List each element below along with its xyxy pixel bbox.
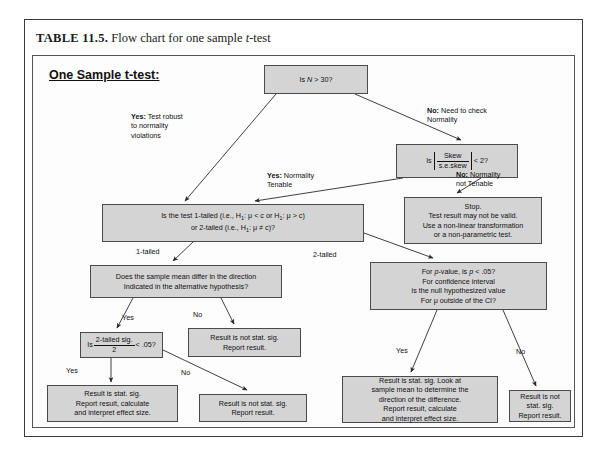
flowchart-frame: One Sample t-test: Is N > 30? Is Skews.e…: [32, 55, 575, 428]
node-is-n-greater-30[interactable]: Is N > 30?: [264, 65, 368, 94]
edge-label-no-normality-not-tenable: No: Normalitynot Tenable: [456, 170, 500, 189]
node-result-not-sig-report-upper[interactable]: Result is not stat. sig.Report result.: [188, 328, 301, 357]
table-caption-post: -test: [249, 31, 271, 45]
edge-label-yes-halfsig: Yes: [66, 366, 78, 375]
edge-label-yes-test-robust: Yes: Test robustto normalityviolations: [131, 112, 183, 140]
node-sample-mean-direction-question[interactable]: Does the sample mean differ in the direc…: [90, 265, 282, 298]
node-result-not-sig-report-lower[interactable]: Result is not stat. sig.Report result.: [199, 394, 307, 422]
edge-pvalue-to-sigright: [411, 310, 437, 372]
edge-label-no-check-normality: No: Need to checkNormality: [427, 106, 487, 125]
edge-label-1-tailed: 1-tailed: [136, 247, 160, 256]
edge-tails-to-direction: [173, 242, 193, 261]
table-number-label: TABLE 11.5.: [36, 31, 108, 45]
node-two-tailed-sig-halved-question[interactable]: Is2-tailed sig.2< .05?: [80, 332, 163, 358]
flowchart-canvas: One Sample t-test: Is N > 30? Is Skews.e…: [33, 56, 575, 428]
edge-n30-to-tails: [185, 94, 276, 201]
node-p-value-ci-question[interactable]: For p-value, is p < .05?For confidence i…: [370, 262, 547, 310]
edge-label-no-direction: No: [193, 310, 202, 319]
edge-label-no-pvalue: No: [516, 347, 525, 356]
table-title: TABLE 11.5. Flow chart for one sample t-…: [36, 31, 436, 51]
edge-label-yes-normality-tenable: Yes: NormalityTenable: [267, 171, 314, 190]
flowchart-heading: One Sample t-test:: [49, 68, 159, 82]
node-stop-invalid-result[interactable]: Stop.Test result may not be valid.Use a …: [404, 197, 542, 244]
edge-label-yes-pvalue: Yes: [396, 346, 408, 355]
edge-label-yes-direction: Yes: [122, 313, 134, 322]
table-caption-pre: Flow chart for one sample: [111, 31, 245, 45]
node-tailed-test-question[interactable]: Is the test 1-tailed (i.e., H1: μ < c or…: [102, 204, 364, 242]
screenshot-page: TABLE 11.5. Flow chart for one sample t-…: [0, 0, 607, 466]
edge-label-2-tailed: 2-tailed: [313, 250, 337, 259]
edge-direction-to-notsig1: [221, 298, 234, 324]
node-result-sig-report-effect-size[interactable]: Result is stat. sig.Report result, calcu…: [47, 385, 178, 422]
node-result-sig-look-at-sample-mean[interactable]: Result is stat. sig. Look atsample mean …: [342, 376, 498, 423]
node-result-not-sig-report-right[interactable]: Result is notstat. sig.Report result.: [509, 390, 571, 422]
edge-label-no-halfsig: No: [181, 368, 190, 377]
